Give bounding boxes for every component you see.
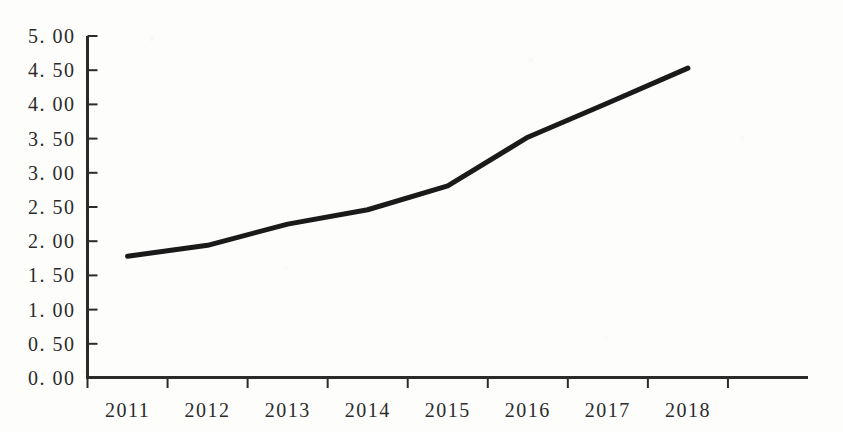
y-axis-tick-label: 2. 00	[28, 231, 76, 251]
x-axis-tick-label: 2016	[505, 400, 551, 420]
y-axis-tick-label: 4. 00	[28, 94, 76, 114]
y-axis-tick-label: 1. 00	[28, 300, 76, 320]
x-axis-tick-label: 2014	[345, 400, 391, 420]
axis-group	[86, 36, 808, 388]
line-chart: 0. 000. 501. 001. 502. 002. 503. 003. 50…	[0, 0, 843, 432]
y-axis-tick-label: 3. 00	[28, 163, 76, 183]
y-axis-tick-label: 4. 50	[28, 60, 76, 80]
y-axis-tick-label: 0. 00	[28, 368, 76, 388]
x-axis-tick-label: 2013	[265, 400, 311, 420]
data-series-line	[128, 68, 688, 256]
y-axis-tick-label: 3. 50	[28, 129, 76, 149]
y-axis-tick-label: 5. 00	[28, 26, 76, 46]
y-axis-tick-label: 1. 50	[28, 265, 76, 285]
plot-area	[0, 0, 843, 432]
x-axis-tick-label: 2011	[105, 400, 150, 420]
y-axis-tick-label: 0. 50	[28, 334, 76, 354]
y-axis-tick-label: 2. 50	[28, 197, 76, 217]
x-axis-tick-label: 2018	[665, 400, 711, 420]
x-axis-tick-label: 2015	[425, 400, 471, 420]
x-axis-ticks	[88, 378, 728, 388]
x-axis-tick-label: 2012	[185, 400, 231, 420]
x-axis-tick-label: 2017	[585, 400, 631, 420]
